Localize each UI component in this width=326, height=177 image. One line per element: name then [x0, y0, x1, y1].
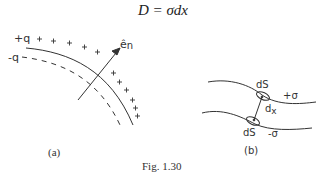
normal-vector-label: ên [120, 38, 133, 51]
separation-line [254, 97, 262, 120]
upper-area-label: dS [256, 79, 269, 90]
surface-curve [26, 48, 133, 125]
upper-charge-label: +σ [283, 90, 298, 101]
dashed-curve [22, 57, 120, 125]
lower-area-element [245, 115, 261, 127]
charge-negative-label: -q [8, 51, 19, 64]
panel-b-label: (b) [244, 145, 258, 156]
charge-positive-label: +q [14, 32, 30, 45]
arrowhead-icon [112, 48, 120, 55]
figure-canvas: +q -q ên (a) dS +σ dx dS -σ (b) Fig. 1.3… [0, 0, 326, 177]
figure-caption: Fig. 1.30 [142, 160, 182, 172]
panel-a-label: (a) [48, 146, 61, 159]
lower-charge-label: -σ [268, 128, 279, 139]
lower-area-label: dS [243, 127, 256, 138]
separation-label: dx [265, 103, 277, 116]
lower-sheet [202, 111, 312, 129]
